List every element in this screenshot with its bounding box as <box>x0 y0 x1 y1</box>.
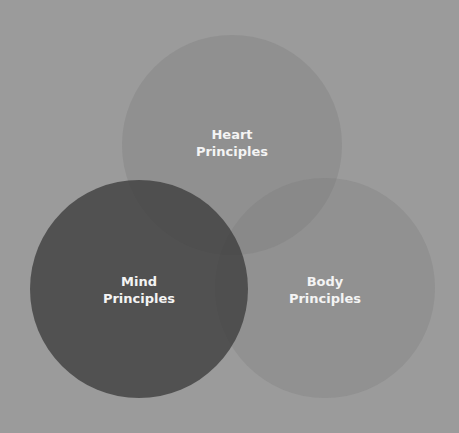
heart-label-line2: Principles <box>196 143 268 160</box>
venn-diagram: Heart Principles Mind Principles Body Pr… <box>0 0 459 433</box>
mind-label-line1: Mind <box>103 273 175 290</box>
heart-label-line1: Heart <box>196 126 268 143</box>
body-label-line2: Principles <box>289 290 361 307</box>
mind-label-line2: Principles <box>103 290 175 307</box>
body-principles-label: Body Principles <box>289 273 361 307</box>
mind-principles-label: Mind Principles <box>103 273 175 307</box>
heart-principles-label: Heart Principles <box>196 126 268 160</box>
body-label-line1: Body <box>289 273 361 290</box>
